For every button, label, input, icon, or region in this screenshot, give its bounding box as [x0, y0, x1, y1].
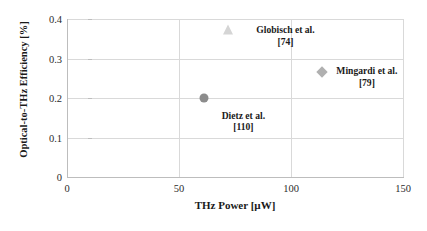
x-axis-tick-label: 150 — [395, 183, 411, 194]
gridline-horizontal — [67, 19, 403, 20]
x-axis-title: THz Power [µW] — [67, 199, 403, 211]
annotation-reference: [79] — [336, 77, 397, 89]
y-axis-tick-mark — [88, 98, 92, 99]
data-point-circle-marker — [199, 93, 208, 102]
y-axis-tick-mark — [88, 138, 92, 139]
y-axis-line — [67, 19, 68, 178]
y-axis-tick-label: 0.1 — [49, 132, 62, 143]
y-axis-tick-labels: 00.10.20.30.4 — [26, 19, 62, 177]
y-axis-title: Optical-to-THz Efficiency [%] — [18, 10, 29, 170]
data-point-triangle-marker — [223, 25, 233, 35]
x-axis-line — [67, 177, 404, 178]
data-point-diamond-marker — [317, 66, 328, 77]
data-point-annotation: Dietz et al.[110] — [222, 110, 265, 133]
gridline-vertical — [179, 19, 180, 177]
gridline-horizontal — [67, 138, 403, 139]
annotation-reference: [110] — [222, 121, 265, 133]
y-axis-tick-mark — [88, 19, 92, 20]
gridline-vertical — [403, 19, 404, 177]
gridline-horizontal — [67, 98, 403, 99]
y-axis-tick-label: 0.3 — [49, 53, 62, 64]
y-axis-tick-label: 0.4 — [49, 14, 62, 25]
x-axis-tick-label: 100 — [283, 183, 299, 194]
chart-screenshot: Globisch et al.[74]Mingardi et al.[79]Di… — [0, 0, 427, 231]
y-axis-tick-mark — [88, 59, 92, 60]
x-axis-tick-label: 50 — [174, 183, 185, 194]
gridline-horizontal — [67, 59, 403, 60]
annotation-label: Dietz et al. — [222, 110, 265, 122]
y-axis-tick-label: 0 — [57, 172, 62, 183]
data-point-annotation: Mingardi et al.[79] — [336, 65, 397, 88]
x-axis-tick-label: 0 — [64, 183, 69, 194]
data-point-annotation: Globisch et al.[74] — [256, 24, 314, 47]
annotation-label: Mingardi et al. — [336, 65, 397, 77]
annotation-label: Globisch et al. — [256, 24, 314, 36]
y-axis-tick-label: 0.2 — [49, 93, 62, 104]
y-axis-tick-mark — [88, 177, 92, 178]
plot-area: Globisch et al.[74]Mingardi et al.[79]Di… — [67, 19, 403, 177]
annotation-reference: [74] — [256, 36, 314, 48]
x-axis-tick-labels: 050100150 — [67, 183, 403, 197]
